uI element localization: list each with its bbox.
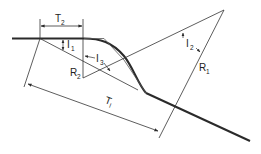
svg-text:2: 2 bbox=[61, 19, 65, 26]
label-i2: I 2 bbox=[186, 38, 194, 51]
svg-text:I: I bbox=[96, 53, 99, 64]
i2-leader-bottom bbox=[196, 48, 200, 52]
label-r2: R 2 bbox=[70, 67, 81, 80]
svg-text:I: I bbox=[186, 38, 189, 49]
t1-dimension-line bbox=[28, 84, 158, 131]
svg-text:2: 2 bbox=[190, 44, 194, 51]
label-i3: I 3 bbox=[96, 53, 104, 66]
t1-extension-left bbox=[24, 39, 40, 88]
label-t1: T l bbox=[103, 94, 115, 109]
label-i1: I 1 bbox=[67, 39, 75, 52]
long-chord-line bbox=[40, 39, 138, 91]
radius-r1-line bbox=[159, 10, 224, 138]
svg-text:T: T bbox=[104, 94, 114, 106]
forward-tangent-line bbox=[146, 93, 250, 141]
compound-curve bbox=[84, 39, 146, 94]
compound-curve-diagram: T 2 I 1 I 3 R 2 I 2 R 1 T l bbox=[0, 0, 261, 154]
i3-leader-left bbox=[85, 56, 95, 58]
svg-text:3: 3 bbox=[100, 59, 104, 66]
svg-text:1: 1 bbox=[71, 45, 75, 52]
svg-text:1: 1 bbox=[206, 68, 210, 75]
svg-text:I: I bbox=[67, 39, 70, 50]
svg-text:2: 2 bbox=[77, 73, 81, 80]
label-t2: T 2 bbox=[55, 13, 65, 26]
label-r1: R 1 bbox=[199, 62, 210, 75]
